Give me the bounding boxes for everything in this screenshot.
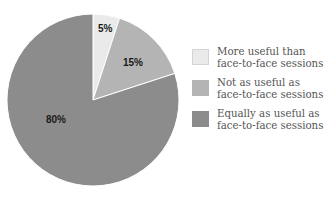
chart-legend: More useful thanface-to-face sessions No… <box>192 46 323 139</box>
legend-swatch <box>192 111 209 127</box>
legend-swatch <box>192 49 209 65</box>
slice-label-more-useful: 5% <box>98 23 112 34</box>
legend-swatch <box>192 80 209 96</box>
legend-label: face-to-face sessions <box>217 89 323 101</box>
legend-item-equally-useful: Equally as useful asface-to-face session… <box>192 108 323 139</box>
slice-label-not-as-useful: 15% <box>123 57 143 68</box>
legend-label: Equally as useful as <box>217 108 323 120</box>
legend-label: face-to-face sessions <box>217 58 323 70</box>
slice-label-equally-useful: 80% <box>46 114 66 125</box>
pie-chart <box>0 0 190 199</box>
legend-label: face-to-face sessions <box>217 120 323 132</box>
legend-item-not-as-useful: Not as useful asface-to-face sessions <box>192 77 323 108</box>
legend-label: More useful than <box>217 46 323 58</box>
legend-label: Not as useful as <box>217 77 323 89</box>
legend-item-more-useful: More useful thanface-to-face sessions <box>192 46 323 77</box>
